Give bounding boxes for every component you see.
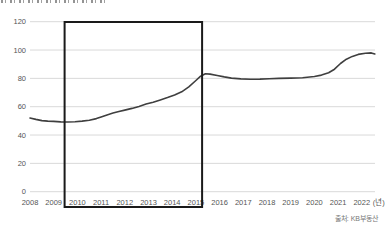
x-tick-label-2020: 2020 — [306, 198, 323, 207]
x-tick-label-2017: 2017 — [235, 198, 252, 207]
x-tick-label-2008: 2008 — [22, 198, 39, 207]
x-tick-label-2016: 2016 — [211, 198, 228, 207]
y-tick-label-120: 120 — [13, 17, 26, 26]
x-tick-label-2009: 2009 — [45, 198, 62, 207]
x-tick-label-2014: 2014 — [164, 198, 181, 207]
y-tick-label-0: 0 — [22, 187, 26, 196]
source-caption: 출처: KB부동산 — [335, 213, 378, 223]
line-chart-canvas: 0204060801001202008200920102011201220132… — [0, 0, 387, 231]
y-tick-label-80: 80 — [18, 74, 26, 83]
y-tick-label-60: 60 — [18, 102, 26, 111]
x-tick-label-2012: 2012 — [116, 198, 133, 207]
x-tick-label-2022: 2022 — [353, 198, 370, 207]
y-tick-label-40: 40 — [18, 131, 26, 140]
x-tick-label-2018: 2018 — [259, 198, 276, 207]
y-tick-label-100: 100 — [13, 46, 26, 55]
x-axis-unit-label: (년) — [373, 197, 385, 207]
x-tick-label-2021: 2021 — [330, 198, 347, 207]
price-index-chart: 0204060801001202008200920102011201220132… — [0, 0, 387, 231]
x-tick-label-2010: 2010 — [69, 198, 86, 207]
x-tick-label-2013: 2013 — [140, 198, 157, 207]
x-tick-label-2011: 2011 — [93, 198, 109, 207]
x-tick-label-2019: 2019 — [282, 198, 299, 207]
y-tick-label-20: 20 — [18, 159, 26, 168]
